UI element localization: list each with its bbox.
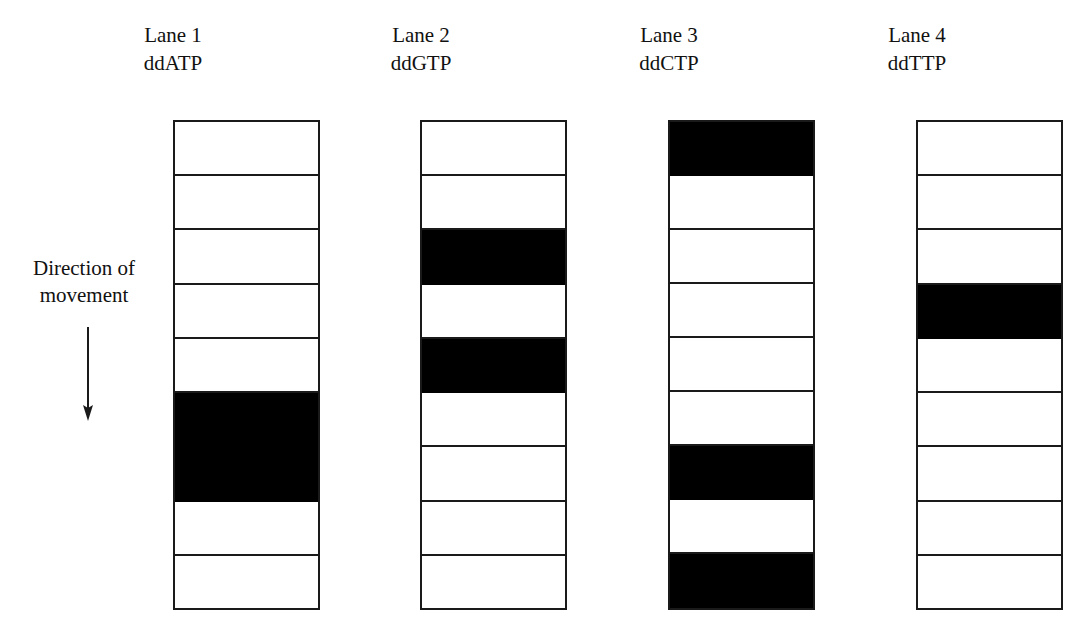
gel-lane-1[interactable] <box>173 120 320 610</box>
gel-row-empty <box>918 339 1061 393</box>
gel-row-empty <box>175 230 318 284</box>
dna-band <box>422 339 565 393</box>
lane-reagent-1: ddATP <box>88 50 258 78</box>
gel-row-empty <box>918 447 1061 501</box>
gel-row-empty <box>175 556 318 608</box>
gel-row-empty <box>918 502 1061 556</box>
lane-reagent-3: ddCTP <box>584 50 754 78</box>
lane-title-3: Lane 3 <box>584 22 754 50</box>
gel-row-empty <box>670 176 813 230</box>
direction-of-movement-label: Direction of movement <box>0 255 168 310</box>
dna-band <box>175 447 318 501</box>
lane-title-4: Lane 4 <box>832 22 1002 50</box>
down-arrow-icon <box>58 325 118 425</box>
gel-row-empty <box>175 122 318 176</box>
gel-row-empty <box>175 285 318 339</box>
gel-row-empty <box>175 339 318 393</box>
gel-row-empty <box>670 392 813 446</box>
gel-row-empty <box>422 502 565 556</box>
gel-row-empty <box>422 176 565 230</box>
gel-row-empty <box>918 176 1061 230</box>
lane-title-1: Lane 1 <box>88 22 258 50</box>
gel-row-empty <box>422 285 565 339</box>
gel-row-empty <box>918 230 1061 284</box>
gel-row-empty <box>422 556 565 608</box>
gel-row-empty <box>422 447 565 501</box>
gel-row-empty <box>670 338 813 392</box>
gel-row-empty <box>422 393 565 447</box>
gel-row-empty <box>670 230 813 284</box>
gel-row-empty <box>918 393 1061 447</box>
gel-lane-3[interactable] <box>668 120 815 610</box>
lane-title-2: Lane 2 <box>336 22 506 50</box>
lane-header-1: Lane 1 ddATP <box>88 22 258 77</box>
gel-row-empty <box>918 556 1061 608</box>
gel-row-empty <box>670 500 813 554</box>
gel-row-empty <box>918 122 1061 176</box>
dna-band <box>918 285 1061 339</box>
lane-reagent-4: ddTTP <box>832 50 1002 78</box>
direction-label-line-1: Direction of <box>0 255 168 282</box>
gel-row-empty <box>670 284 813 338</box>
gel-lane-2[interactable] <box>420 120 567 610</box>
dna-band <box>670 122 813 176</box>
direction-label-line-2: movement <box>0 282 168 309</box>
dna-band <box>422 230 565 284</box>
gel-row-empty <box>175 176 318 230</box>
lane-header-2: Lane 2 ddGTP <box>336 22 506 77</box>
lane-reagent-2: ddGTP <box>336 50 506 78</box>
dna-band <box>175 393 318 447</box>
lane-header-4: Lane 4 ddTTP <box>832 22 1002 77</box>
gel-row-empty <box>175 502 318 556</box>
gel-lane-4[interactable] <box>916 120 1063 610</box>
dna-band <box>670 554 813 608</box>
lane-header-3: Lane 3 ddCTP <box>584 22 754 77</box>
gel-row-empty <box>422 122 565 176</box>
gel-figure-canvas: Direction of movement Lane 1 ddATP Lane … <box>0 0 1080 630</box>
dna-band <box>670 446 813 500</box>
